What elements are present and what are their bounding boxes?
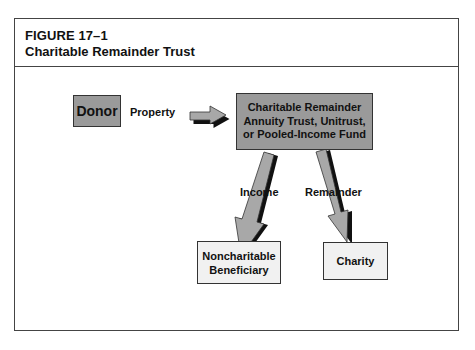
arrows-layer bbox=[0, 0, 475, 350]
property-arrow-icon bbox=[190, 106, 230, 128]
charity-label: Charity bbox=[337, 255, 375, 267]
charity-node: Charity bbox=[323, 242, 388, 280]
donor-node: Donor bbox=[73, 95, 121, 127]
beneficiary-label-line-2: Beneficiary bbox=[209, 263, 268, 277]
beneficiary-label-line-1: Noncharitable bbox=[202, 249, 275, 263]
trust-label-line-2: Annuity Trust, Unitrust, bbox=[243, 115, 365, 129]
trust-label-line-3: or Pooled-Income Fund bbox=[243, 128, 366, 142]
beneficiary-node: Noncharitable Beneficiary bbox=[197, 241, 281, 284]
property-label: Property bbox=[130, 106, 175, 118]
donor-label: Donor bbox=[76, 103, 117, 119]
trust-node: Charitable Remainder Annuity Trust, Unit… bbox=[236, 93, 373, 150]
income-label: Income bbox=[240, 186, 279, 198]
remainder-label: Remainder bbox=[305, 186, 362, 198]
trust-label-line-1: Charitable Remainder bbox=[248, 101, 362, 115]
